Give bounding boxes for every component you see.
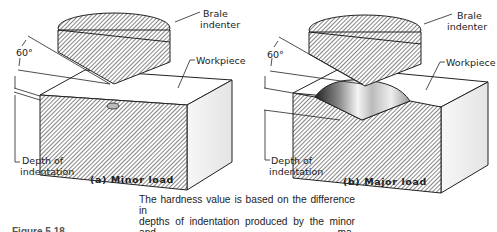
- workpiece-label-a: Workpiece: [196, 55, 246, 66]
- brale-indenter-a: [58, 13, 170, 84]
- indenter-label-a-line2: indenter: [200, 19, 240, 30]
- caption-line-1: The hardness value is based on the diffe…: [139, 194, 355, 216]
- subtitle-b: (b) Major load: [343, 176, 427, 187]
- subtitle-a: (a) Minor load: [90, 174, 174, 185]
- workpiece-label-b: Workpiece: [446, 57, 496, 68]
- angle-label-b: 60°: [267, 49, 284, 60]
- angle-label-a: 60°: [16, 47, 33, 58]
- depth-label-a-line1: Depth of: [22, 155, 63, 166]
- depth-label-b-line1: Depth of: [271, 155, 312, 166]
- indenter-label-a-line1: Brale: [203, 8, 228, 19]
- indentation-dimple-a: [107, 103, 119, 109]
- indenter-leader-a: [175, 12, 200, 22]
- depth-label-b-line2: indentation: [269, 166, 323, 177]
- figure-caption-truncated: Figure 5.18 …: [12, 226, 492, 232]
- indenter-label-b-line1: Brale: [457, 10, 482, 21]
- depth-label-a-line2: indentation: [20, 166, 74, 177]
- depth-dimension-a: [14, 76, 40, 162]
- indenter-label-b-line2: indenter: [447, 21, 487, 32]
